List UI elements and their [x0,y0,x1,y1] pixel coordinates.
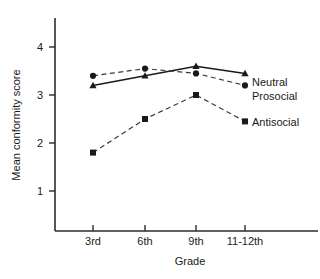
data-point-marker [242,118,248,124]
legend-label-neutral: Neutral [252,76,287,88]
data-point-marker [193,70,199,76]
x-tick-label-3rd: 3rd [85,235,101,247]
series-antisocial [90,92,248,156]
x-tick-label-11-12th: 11-12th [227,235,264,247]
series-neutral [89,63,248,89]
series-prosocial-markers [90,66,248,89]
line-chart-canvas: 4 3 2 1 3rd 6th 9th 11-12th Grade Mean c… [0,0,320,279]
series-prosocial-line [93,69,245,86]
series-antisocial-line [93,95,245,153]
data-point-marker [193,92,199,98]
chart-figure: 4 3 2 1 3rd 6th 9th 11-12th Grade Mean c… [0,0,320,279]
x-tick-label-9th: 9th [188,235,203,247]
series-neutral-markers [89,63,248,89]
data-point-marker [90,73,96,79]
legend-label-antisocial: Antisocial [252,116,299,128]
data-point-marker [142,66,148,72]
x-tick-label-6th: 6th [137,235,152,247]
data-point-marker [90,150,96,156]
data-point-marker [142,116,148,122]
y-axis-title: Mean conformity score [10,69,22,180]
data-point-marker [192,63,199,69]
y-tick-label-3: 3 [37,89,43,101]
y-tick-label-4: 4 [37,41,43,53]
y-tick-label-2: 2 [37,137,43,149]
series-antisocial-markers [90,92,248,156]
legend-label-prosocial: Prosocial [252,90,297,102]
data-point-marker [242,82,248,88]
x-axis-title: Grade [175,255,206,267]
y-tick-label-1: 1 [37,185,43,197]
series-neutral-line [93,66,245,85]
series-prosocial [90,66,248,89]
